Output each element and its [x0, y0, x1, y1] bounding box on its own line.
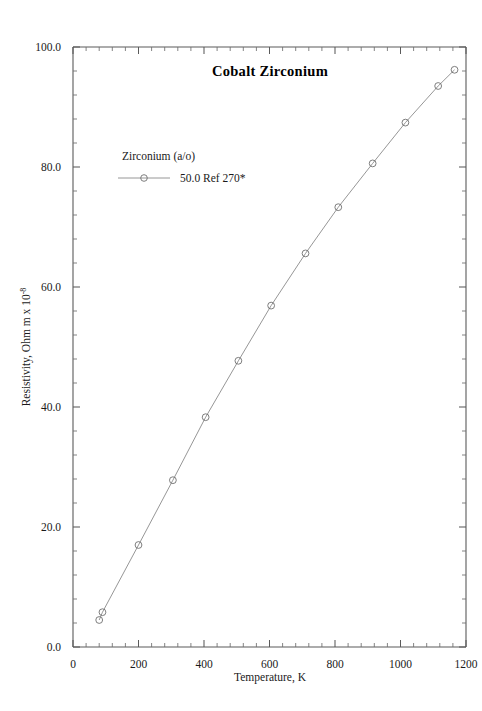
x-tick-label: 1000: [389, 658, 412, 670]
x-tick-label: 0: [70, 658, 76, 670]
x-tick-label: 600: [261, 658, 279, 670]
y-tick-label: 100.0: [35, 41, 61, 53]
legend-entry[interactable]: 50.0 Ref 270*: [118, 172, 246, 184]
y-tick-label: 0.0: [47, 641, 62, 653]
legend-header: Zirconium (a/o): [122, 150, 195, 163]
y-axis-title-exponent: -8: [19, 288, 28, 295]
legend-entry-label: 50.0 Ref 270*: [180, 172, 246, 184]
y-axis-title: Resistivity, Ohm m x 10-8: [19, 288, 33, 407]
y-tick-label: 20.0: [41, 521, 61, 533]
x-axis-title: Temperature, K: [234, 671, 307, 684]
x-tick-label: 200: [130, 658, 148, 670]
y-tick-label: 60.0: [41, 281, 61, 293]
x-tick-label: 1200: [455, 658, 478, 670]
x-tick-label: 400: [195, 658, 213, 670]
x-tick-labels: 020040060080010001200: [70, 658, 478, 670]
y-tick-labels: 0.020.040.060.080.0100.0: [35, 41, 61, 653]
chart-title: Cobalt Zirconium: [212, 63, 328, 79]
resistivity-line-chart: 0.020.040.060.080.0100.0 020040060080010…: [0, 0, 482, 711]
y-axis-title-main: Resistivity, Ohm m x 10: [20, 294, 33, 406]
legend: Zirconium (a/o) 50.0 Ref 270*: [118, 150, 246, 184]
svg-text:Resistivity, Ohm m x 10-8: Resistivity, Ohm m x 10-8: [19, 288, 33, 407]
y-tick-label: 80.0: [41, 161, 61, 173]
x-tick-label: 800: [326, 658, 344, 670]
y-tick-label: 40.0: [41, 401, 61, 413]
figure-container: 0.020.040.060.080.0100.0 020040060080010…: [0, 0, 482, 711]
